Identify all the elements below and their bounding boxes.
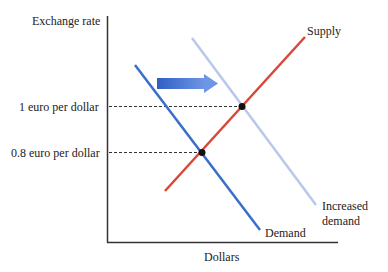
x-axis-label: Dollars [204,250,239,264]
increased-demand-curve [192,38,316,205]
equilibrium-point-low [199,149,206,156]
y-axis-label: Exchange rate [32,14,100,28]
tick-label-low: 0.8 euro per dollar [11,146,100,160]
tick-label-high: 1 euro per dollar [19,100,99,114]
supply-label: Supply [307,24,341,38]
shift-arrow-icon [157,74,218,93]
demand-label: Demand [265,226,306,240]
increased-demand-label-line1: Increased [322,199,368,213]
increased-demand-label-line2: demand [322,214,360,228]
demand-curve [135,65,260,230]
exchange-rate-diagram [0,0,388,272]
equilibrium-point-high [239,103,246,110]
supply-curve [165,37,305,191]
